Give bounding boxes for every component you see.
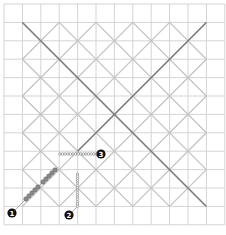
bead — [80, 153, 83, 156]
bead — [76, 205, 78, 207]
grid-diagram: 123 — [0, 0, 226, 235]
bead — [61, 153, 64, 156]
bead — [87, 153, 90, 156]
bead — [77, 153, 80, 156]
bead — [53, 168, 58, 173]
bead — [64, 153, 67, 156]
bead-strands — [12, 153, 98, 215]
bead — [67, 153, 70, 156]
marker-label: 1 — [10, 210, 15, 218]
diagram-canvas: 123 — [0, 0, 226, 235]
bead — [59, 153, 62, 156]
bead — [93, 153, 96, 156]
marker-2: 2 — [64, 210, 73, 219]
bead — [85, 153, 88, 156]
marker-label: 3 — [99, 151, 104, 159]
main-diagonal — [78, 22, 207, 151]
bead — [90, 153, 93, 156]
bead — [69, 153, 72, 156]
bead — [82, 153, 85, 156]
bead — [36, 185, 41, 190]
marker-3: 3 — [96, 149, 105, 158]
marker-1: 1 — [7, 208, 16, 217]
bead — [74, 153, 77, 156]
bead — [72, 153, 75, 156]
marker-label: 2 — [67, 212, 72, 220]
